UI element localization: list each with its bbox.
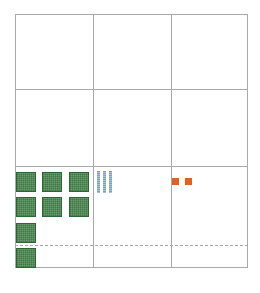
hundred-flat-block bbox=[16, 223, 36, 243]
hundred-flat-block bbox=[69, 197, 89, 217]
hundred-flat-block bbox=[16, 197, 36, 217]
dashed-divider bbox=[15, 245, 248, 246]
hundred-flat-block bbox=[42, 197, 62, 217]
row-divider-2 bbox=[15, 166, 248, 167]
column-divider-1 bbox=[93, 14, 94, 268]
hundred-flat-block bbox=[16, 248, 36, 268]
hundred-flat-block bbox=[42, 172, 62, 192]
ten-rod bbox=[97, 171, 100, 193]
one-unit-cube bbox=[172, 178, 179, 185]
row-divider-1 bbox=[15, 89, 248, 90]
column-divider-2 bbox=[171, 14, 172, 268]
chart-border bbox=[15, 14, 248, 268]
ten-rod bbox=[109, 171, 112, 193]
hundred-flat-block bbox=[69, 172, 89, 192]
one-unit-cube bbox=[185, 178, 192, 185]
hundred-flat-block bbox=[16, 172, 36, 192]
ten-rod bbox=[103, 171, 106, 193]
